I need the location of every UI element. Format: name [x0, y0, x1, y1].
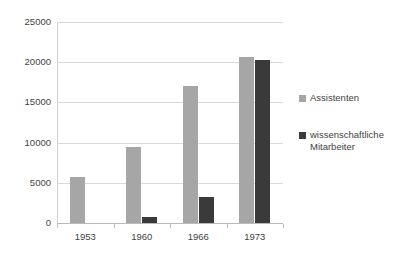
bar-group	[183, 22, 214, 223]
bar-group	[126, 22, 157, 223]
y-tick-label: 5000	[3, 178, 51, 188]
legend-entry[interactable]: Assistenten	[299, 92, 403, 105]
x-tick	[283, 224, 284, 228]
bar[interactable]	[239, 57, 254, 223]
y-axis: 0500010000150002000025000	[0, 22, 51, 224]
x-tick	[170, 224, 171, 228]
chart-legend: Assistentenwissenschaftliche Mitarbeiter	[299, 92, 403, 178]
x-tick	[57, 224, 58, 228]
legend-swatch-icon	[299, 132, 306, 139]
plot-area	[57, 22, 283, 224]
y-tick-label: 0	[3, 218, 51, 228]
bar[interactable]	[126, 147, 141, 223]
bar[interactable]	[70, 177, 85, 223]
y-tick-label: 25000	[3, 17, 51, 27]
legend-swatch-icon	[299, 95, 306, 102]
bar[interactable]	[255, 60, 270, 223]
x-tick-label: 1953	[57, 231, 113, 243]
bar-group	[239, 22, 270, 223]
legend-label: wissenschaftliche Mitarbeiter	[310, 129, 403, 154]
y-tick-label: 20000	[3, 57, 51, 67]
bar-chart-figure: 0500010000150002000025000 19531960196619…	[0, 0, 403, 256]
bars-layer	[57, 22, 283, 224]
x-tick	[227, 224, 228, 228]
x-tick	[114, 224, 115, 228]
y-tick-label: 15000	[3, 97, 51, 107]
legend-entry[interactable]: wissenschaftliche Mitarbeiter	[299, 129, 403, 154]
bar-group	[70, 22, 101, 223]
bar[interactable]	[199, 197, 214, 223]
y-tick-label: 10000	[3, 138, 51, 148]
legend-label: Assistenten	[310, 92, 359, 105]
x-axis-labels: 1953196019661973	[57, 231, 283, 247]
x-tick-label: 1960	[114, 231, 170, 243]
x-tick-label: 1966	[170, 231, 226, 243]
x-axis-ticks	[57, 224, 283, 229]
bar[interactable]	[183, 86, 198, 223]
x-tick-label: 1973	[227, 231, 283, 243]
